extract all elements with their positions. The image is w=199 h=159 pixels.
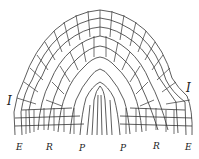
label-left-i: I	[7, 95, 12, 107]
label-e-left: E	[16, 143, 23, 152]
cell-diagram	[0, 0, 199, 159]
label-e-right: E	[185, 143, 192, 152]
label-r-right: R	[153, 142, 160, 151]
label-p-right: P	[120, 144, 126, 153]
label-r-left: R	[46, 143, 53, 152]
label-p-left: P	[79, 144, 85, 153]
label-right-i: I	[186, 82, 191, 94]
